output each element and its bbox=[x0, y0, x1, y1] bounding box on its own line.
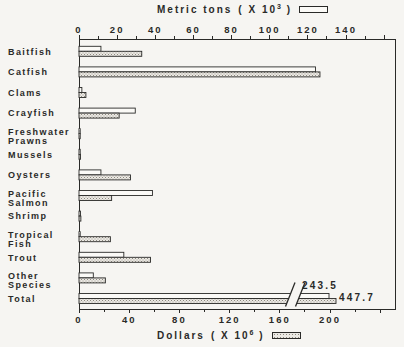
bar-metric-tons bbox=[79, 129, 80, 134]
legend-dollars-unit: ( X 106 ) bbox=[211, 329, 265, 341]
bottom-axis-tick-label: 40 bbox=[122, 314, 137, 325]
bar-metric-tons bbox=[79, 67, 315, 72]
top-axis-tick-label: 140 bbox=[335, 24, 357, 35]
legend-dollars: Dollars ( X 106 ) bbox=[157, 329, 301, 341]
bar-metric-tons bbox=[79, 170, 101, 175]
bar-dollars bbox=[79, 216, 81, 221]
category-label: Baitfish bbox=[8, 47, 52, 57]
plot-border bbox=[79, 39, 395, 309]
legend-dollars-label: Dollars bbox=[157, 330, 205, 341]
legend-metric-tons-label: Metric tons bbox=[157, 4, 232, 15]
total-dollars-value: 447.7 bbox=[339, 292, 375, 303]
open-bar-swatch-icon bbox=[299, 6, 328, 13]
bar-metric-tons bbox=[79, 191, 152, 196]
bar-dollars bbox=[79, 72, 320, 77]
bar-dollars bbox=[79, 113, 119, 118]
bar-dollars bbox=[79, 134, 80, 139]
bar-dollars bbox=[79, 196, 112, 201]
legend-metric-tons-unit: ( X 103 ) bbox=[238, 3, 292, 15]
bar-metric-tons bbox=[79, 88, 82, 93]
category-label: Total bbox=[8, 294, 36, 304]
bottom-axis-tick-label: 0 bbox=[75, 314, 82, 325]
top-axis-tick-label: 40 bbox=[148, 24, 163, 35]
bar-dollars bbox=[79, 278, 105, 283]
bottom-axis-tick-label: 160 bbox=[269, 314, 291, 325]
top-axis-tick-label: 100 bbox=[259, 24, 281, 35]
bar-metric-tons bbox=[79, 273, 93, 278]
bar-metric-tons bbox=[79, 232, 80, 237]
top-axis-tick-label: 20 bbox=[110, 24, 125, 35]
bottom-axis-tick-label: 80 bbox=[172, 314, 187, 325]
bottom-axis-tick-label: 200 bbox=[319, 314, 341, 325]
bar-metric-tons bbox=[79, 149, 80, 154]
top-axis-tick-label: 120 bbox=[297, 24, 319, 35]
stipple-bar-swatch-icon bbox=[272, 332, 301, 339]
legend-metric-tons: Metric tons ( X 103 ) bbox=[157, 3, 328, 15]
bar-dollars bbox=[79, 175, 130, 180]
top-axis-tick-label: 80 bbox=[224, 24, 239, 35]
category-label: Prawns bbox=[8, 136, 48, 146]
category-label: Oysters bbox=[8, 170, 51, 180]
aquaculture-production-chart: Metric tons ( X 103 ) 020406080100120140… bbox=[0, 0, 404, 347]
category-label: Fish bbox=[8, 239, 32, 249]
top-axis-tick-label: 0 bbox=[75, 24, 82, 35]
category-label: Crayfish bbox=[8, 108, 55, 118]
category-label: Shrimp bbox=[8, 211, 47, 221]
bar-dollars bbox=[79, 237, 110, 242]
total-metric-tons-value: 243.5 bbox=[302, 280, 338, 291]
category-label: Species bbox=[8, 280, 52, 290]
bar-dollars bbox=[79, 51, 142, 56]
category-label: Catfish bbox=[8, 67, 48, 77]
bar-dollars bbox=[79, 93, 86, 98]
bar-metric-tons bbox=[79, 211, 81, 216]
bar-metric-tons bbox=[79, 108, 135, 113]
bar-metric-tons bbox=[79, 46, 101, 51]
category-label: Clams bbox=[8, 88, 42, 98]
category-label: Mussels bbox=[8, 150, 53, 160]
top-axis-tick-label: 60 bbox=[186, 24, 201, 35]
bottom-axis-tick-label: 120 bbox=[219, 314, 241, 325]
chart-canvas: 02040608010012014004080120160200Baitfish… bbox=[0, 0, 404, 347]
category-label: Trout bbox=[8, 253, 38, 263]
bar-metric-tons bbox=[79, 252, 124, 257]
category-label: Salmon bbox=[8, 198, 49, 208]
bar-dollars bbox=[79, 154, 81, 159]
bar-dollars bbox=[79, 257, 151, 262]
